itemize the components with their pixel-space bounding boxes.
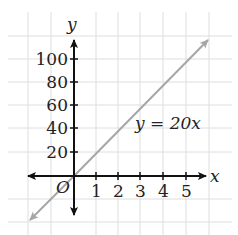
equation-label: y = 20x [134, 113, 201, 133]
origin-label: O [56, 177, 70, 197]
x-tick-3: 3 [135, 181, 146, 201]
x-axis [28, 172, 206, 180]
graph-figure: x y O 1 2 3 4 5 20 40 60 80 100 y = 20x [0, 0, 238, 235]
coordinate-plane: x y O 1 2 3 4 5 20 40 60 80 100 y = 20x [0, 0, 238, 235]
y-tick-40: 40 [46, 118, 68, 138]
x-tick-2: 2 [113, 181, 124, 201]
line-y-equals-20x [74, 40, 208, 176]
x-axis-label: x [210, 166, 220, 186]
y-tick-20: 20 [46, 142, 68, 162]
y-axis-label: y [66, 14, 77, 34]
y-axis [70, 40, 78, 215]
x-tick-4: 4 [158, 181, 169, 201]
y-tick-80: 80 [46, 72, 68, 92]
y-tick-60: 60 [46, 95, 68, 115]
x-tick-5: 5 [181, 181, 192, 201]
y-tick-100: 100 [36, 49, 68, 69]
x-tick-1: 1 [91, 181, 102, 201]
